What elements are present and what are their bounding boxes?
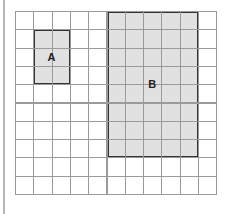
grid-cell-shaded <box>161 84 180 103</box>
grid-cell <box>15 66 34 85</box>
grid-cell <box>107 157 126 176</box>
rectangle-label-b: B <box>148 78 156 90</box>
grid-cell <box>198 84 217 103</box>
grid-cell-shaded <box>125 48 144 67</box>
grid-cell <box>198 176 217 195</box>
grid-cell-shaded <box>161 48 180 67</box>
grid-cell <box>52 11 71 30</box>
grid-cell <box>15 29 34 48</box>
grid-cell-shaded <box>180 139 199 158</box>
grid-cell <box>198 29 217 48</box>
grid-cell <box>70 29 89 48</box>
grid-cell-shaded <box>33 66 52 85</box>
grid-cell <box>52 103 71 122</box>
grid-cell <box>15 157 34 176</box>
grid-cell <box>33 157 52 176</box>
grid-cell-shaded <box>125 121 144 140</box>
grid-cell <box>33 11 52 30</box>
grid-cell <box>15 139 34 158</box>
grid-cell <box>52 121 71 140</box>
grid-cell <box>15 11 34 30</box>
grid-cell-shaded <box>107 11 126 30</box>
grid-cell-shaded <box>143 103 162 122</box>
grid-cell <box>33 139 52 158</box>
grid-cell <box>15 103 34 122</box>
grid-cell <box>33 103 52 122</box>
grid-cell <box>198 48 217 67</box>
grid-cell-shaded <box>143 29 162 48</box>
grid-cell <box>198 103 217 122</box>
grid-cell-shaded <box>107 103 126 122</box>
rectangle-label-a: A <box>48 51 56 63</box>
grid-cell <box>15 176 34 195</box>
grid-cell-shaded <box>180 11 199 30</box>
grid-cell-shaded <box>52 66 71 85</box>
grid-cell <box>88 103 107 122</box>
grid-cell <box>143 157 162 176</box>
grid-cell <box>33 84 52 103</box>
grid-cell-shaded <box>107 84 126 103</box>
grid-cell <box>198 66 217 85</box>
grid-cell-shaded <box>180 103 199 122</box>
grid-cell <box>70 48 89 67</box>
grid-cell-shaded <box>143 121 162 140</box>
grid-cell <box>88 139 107 158</box>
grid-cell-shaded <box>125 11 144 30</box>
grid-cell-shaded <box>125 29 144 48</box>
grid-cell-shaded <box>161 139 180 158</box>
grid-cell <box>88 84 107 103</box>
grid-cell <box>125 157 144 176</box>
grid-cell-shaded <box>161 103 180 122</box>
grid-cell <box>70 103 89 122</box>
grid-cell <box>52 157 71 176</box>
grid-cell-shaded <box>125 103 144 122</box>
grid-cell <box>180 176 199 195</box>
grid-cell <box>70 66 89 85</box>
left-margin-bar <box>3 0 5 214</box>
grid-cell-shaded <box>180 48 199 67</box>
grid-cell-shaded <box>107 66 126 85</box>
grid-cell-shaded <box>180 121 199 140</box>
grid-cell-shaded <box>180 66 199 85</box>
grid-cell <box>198 157 217 176</box>
grid-cell <box>70 84 89 103</box>
grid-cell <box>33 121 52 140</box>
grid-cell <box>15 84 34 103</box>
grid-cell-shaded <box>161 66 180 85</box>
grid-cell <box>180 157 199 176</box>
grid-cell <box>88 176 107 195</box>
grid-cell-shaded <box>161 121 180 140</box>
grid-cell <box>88 66 107 85</box>
grid: AB <box>15 11 216 194</box>
grid-cell-shaded <box>161 29 180 48</box>
grid-cell <box>88 11 107 30</box>
grid-cell-shaded <box>161 11 180 30</box>
grid-cell <box>88 157 107 176</box>
grid-cell <box>143 176 162 195</box>
grid-cell <box>88 29 107 48</box>
grid-cell-shaded <box>180 29 199 48</box>
grid-cell <box>15 121 34 140</box>
grid-cell <box>88 48 107 67</box>
grid-cell <box>70 157 89 176</box>
grid-cell <box>198 121 217 140</box>
grid-cell-shaded <box>107 29 126 48</box>
grid-cell <box>161 176 180 195</box>
grid-cell-shaded <box>107 139 126 158</box>
grid-cell-shaded <box>107 121 126 140</box>
grid-cell <box>52 176 71 195</box>
grid-cell-shaded <box>33 29 52 48</box>
grid-cell <box>107 176 126 195</box>
grid-cell <box>70 11 89 30</box>
grid-cell <box>15 48 34 67</box>
grid-cell <box>33 176 52 195</box>
grid-cell-shaded <box>107 48 126 67</box>
grid-cell-shaded <box>143 139 162 158</box>
grid-cell <box>125 176 144 195</box>
grid-cell <box>70 139 89 158</box>
grid-cell <box>52 84 71 103</box>
grid-cell-shaded <box>125 139 144 158</box>
grid-cell <box>70 121 89 140</box>
grid-cell <box>198 11 217 30</box>
grid-cell <box>88 121 107 140</box>
